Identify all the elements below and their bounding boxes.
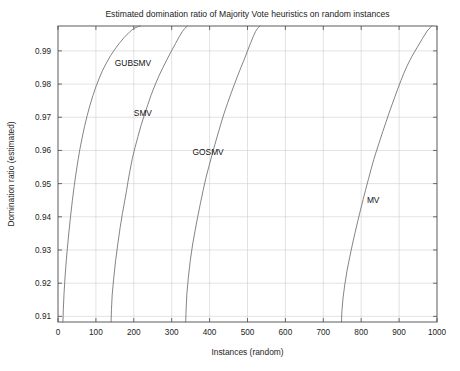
series-label-gubsmv: GUBSMV [115, 58, 152, 68]
y-tick-label: 0.98 [35, 80, 51, 89]
chart-figure: Estimated domination ratio of Majority V… [0, 0, 460, 371]
chart-title: Estimated domination ratio of Majority V… [105, 9, 389, 19]
x-tick-label: 800 [354, 328, 368, 337]
x-tick-label: 600 [279, 328, 293, 337]
y-tick-label: 0.97 [35, 113, 51, 122]
y-axis-label: Domination ratio (estimated) [6, 121, 16, 226]
figure-background [0, 0, 460, 371]
y-tick-label: 0.93 [35, 246, 51, 255]
y-tick-label: 0.91 [35, 312, 51, 321]
series-label-smv: SMV [134, 108, 153, 118]
series-label-gosmv: GOSMV [193, 147, 225, 157]
y-tick-label: 0.96 [35, 146, 51, 155]
series-label-mv: MV [367, 195, 380, 205]
y-tick-label: 0.95 [35, 180, 51, 189]
x-tick-label: 100 [89, 328, 103, 337]
x-tick-label: 1000 [428, 328, 447, 337]
chart-canvas: Estimated domination ratio of Majority V… [0, 0, 460, 371]
x-tick-label: 700 [316, 328, 330, 337]
y-tick-label: 0.94 [35, 213, 51, 222]
y-tick-labels: 0.910.920.930.940.950.960.970.980.99 [35, 47, 51, 321]
x-axis-label: Instances (random) [211, 347, 283, 357]
y-tick-label: 0.92 [35, 279, 51, 288]
x-tick-label: 400 [203, 328, 217, 337]
x-tick-label: 500 [241, 328, 255, 337]
x-tick-label: 900 [392, 328, 406, 337]
y-tick-label: 0.99 [35, 47, 51, 56]
x-tick-label: 200 [127, 328, 141, 337]
x-tick-label: 300 [165, 328, 179, 337]
x-tick-label: 0 [56, 328, 61, 337]
